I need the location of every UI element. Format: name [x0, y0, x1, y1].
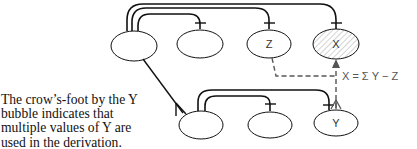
caption-line: bubble indicates that — [1, 107, 141, 121]
caption-line: used in the derivation. — [1, 136, 141, 149]
bubble-t2 — [177, 30, 223, 58]
derivation-lines — [272, 58, 336, 108]
bottom-tick-marks — [265, 104, 334, 105]
label-z: Z — [266, 38, 273, 50]
connector-t1-t2 — [138, 14, 200, 31]
bottom-bubbles — [179, 110, 358, 139]
bottom-connectors — [198, 90, 329, 111]
arrow-up-icon — [332, 59, 340, 68]
crows-foot-connector — [143, 59, 186, 116]
caption: The crow’s-foot by the Y bubble indicate… — [1, 93, 141, 149]
top-bubbles — [111, 29, 359, 61]
bubble-b1 — [179, 111, 223, 139]
label-y: Y — [332, 117, 340, 129]
bubble-t1 — [111, 31, 157, 61]
caption-line: The crow’s-foot by the Y — [1, 93, 141, 107]
caption-line: multiple values of Y are — [1, 121, 141, 135]
formula: X = Σ Y − Z — [342, 70, 398, 82]
top-connectors — [127, 4, 336, 31]
label-x: X — [332, 38, 340, 50]
connector-b1-b2 — [205, 96, 270, 111]
connector-b1-y — [198, 90, 329, 111]
bubble-b2 — [248, 112, 292, 138]
